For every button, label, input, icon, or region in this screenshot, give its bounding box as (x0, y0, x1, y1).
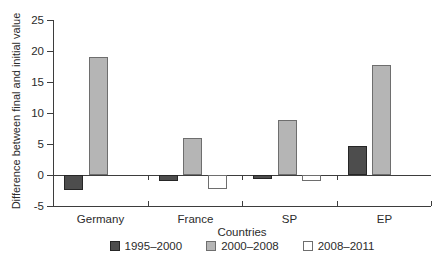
bar-france-1995-2000 (159, 175, 178, 181)
x-tick (431, 201, 432, 206)
legend-label-2000-2008: 2000–2008 (221, 240, 279, 252)
y-tick-label: 15 (18, 76, 44, 88)
y-tick (47, 113, 53, 114)
bar-ep-2000-2008 (372, 65, 391, 175)
zero-line-tick (148, 176, 149, 180)
y-tick (47, 206, 53, 207)
zero-line-tick (242, 176, 243, 180)
category-label-sp: SP (242, 213, 337, 225)
x-tick (242, 201, 243, 206)
bar-france-2008-2011 (208, 175, 227, 189)
bar-sp-1995-2000 (253, 175, 272, 179)
y-tick-label: 20 (18, 45, 44, 57)
legend-item-2000-2008: 2000–2008 (206, 240, 279, 252)
legend-label-2008-2011: 2008–2011 (318, 240, 375, 252)
y-tick (47, 20, 53, 21)
legend-label-1995-2000: 1995–2000 (125, 240, 183, 252)
x-axis-title: Countries (192, 226, 292, 238)
y-tick-label: 10 (18, 107, 44, 119)
category-label-germany: Germany (53, 213, 148, 225)
legend-swatch-1995-2000 (110, 241, 120, 251)
legend-swatch-2008-2011 (303, 241, 313, 251)
bar-france-2000-2008 (183, 138, 202, 175)
y-tick-label: 5 (18, 138, 44, 150)
x-tick (148, 201, 149, 206)
legend: 1995–2000 2000–2008 2008–2011 (53, 240, 431, 252)
bar-germany-1995-2000 (64, 175, 83, 190)
y-axis-line (53, 20, 54, 206)
bar-ep-1995-2000 (348, 146, 367, 175)
y-tick-label: -5 (18, 200, 44, 212)
bar-sp-2008-2011 (302, 175, 321, 181)
y-tick-label: 0 (18, 169, 44, 181)
x-tick (53, 201, 54, 206)
x-tick (337, 201, 338, 206)
y-tick (47, 175, 53, 176)
bar-chart-figure: Difference between final and initial val… (0, 0, 446, 272)
y-tick-label: 25 (18, 14, 44, 26)
zero-line-tick (337, 176, 338, 180)
y-tick (47, 144, 53, 145)
x-axis-line (53, 206, 431, 207)
y-tick (47, 51, 53, 52)
category-label-france: France (148, 213, 243, 225)
legend-swatch-2000-2008 (206, 241, 216, 251)
y-tick (47, 82, 53, 83)
category-label-ep: EP (337, 213, 432, 225)
bar-germany-2000-2008 (89, 57, 108, 175)
bar-sp-2000-2008 (278, 120, 297, 175)
legend-item-1995-2000: 1995–2000 (110, 240, 183, 252)
legend-item-2008-2011: 2008–2011 (303, 240, 375, 252)
